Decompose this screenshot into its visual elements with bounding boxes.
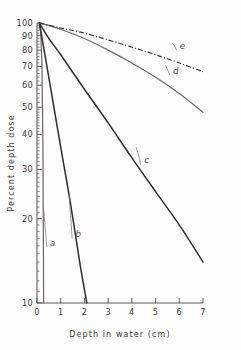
y-tick-label: 50	[22, 102, 33, 112]
y-tick-label: 100	[16, 18, 33, 28]
x-tick-label: 7	[200, 307, 206, 317]
x-tick-label: 3	[105, 307, 111, 317]
x-tick-label: 4	[129, 307, 135, 317]
data-curves-group	[39, 23, 203, 303]
y-tick-label: 90	[22, 31, 33, 41]
x-axis-title: Depth in water (cm)	[69, 330, 170, 339]
curve-label-d: d	[173, 66, 179, 76]
leader-line-c	[136, 147, 141, 165]
depth-dose-chart-figure: 102030405060708090100 01234567 abcde Dep…	[0, 0, 241, 350]
curve-label-b: b	[75, 229, 81, 239]
curve-d	[39, 23, 203, 112]
curve-a	[39, 23, 43, 303]
y-tick-label: 40	[22, 129, 33, 139]
y-tick-label: 70	[22, 61, 33, 71]
x-tick-label: 6	[177, 307, 183, 317]
curve-b	[39, 23, 86, 303]
leader-line-e	[172, 43, 176, 50]
y-tick-label: 60	[22, 80, 33, 90]
x-tick-label: 1	[58, 307, 64, 317]
leader-line-d	[166, 66, 170, 76]
y-tick-label: 10	[22, 298, 33, 308]
curve-label-a: a	[50, 238, 55, 248]
curve-annotation-group: abcde	[43, 41, 185, 248]
y-tick-label: 30	[22, 164, 33, 174]
x-axis-tick-group: 01234567	[34, 298, 206, 317]
curve-label-c: c	[144, 155, 149, 165]
x-tick-label: 5	[153, 307, 159, 317]
curve-c	[39, 23, 203, 262]
y-tick-label: 80	[22, 45, 33, 55]
chart-canvas: 102030405060708090100 01234567 abcde Dep…	[0, 0, 241, 350]
y-axis-title: Percent depth dose	[7, 114, 16, 211]
x-tick-label: 2	[82, 307, 88, 317]
x-tick-label: 0	[34, 307, 40, 317]
curve-label-e: e	[180, 41, 185, 51]
y-axis-tick-group: 102030405060708090100	[16, 18, 42, 308]
y-tick-label: 20	[22, 214, 33, 224]
